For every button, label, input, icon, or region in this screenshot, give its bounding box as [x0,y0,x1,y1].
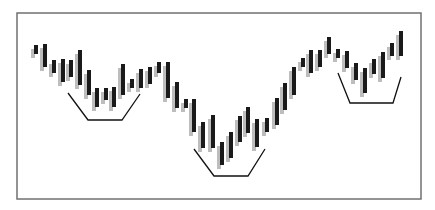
price-bar [363,68,367,93]
price-bar [390,43,394,56]
price-bar [78,50,82,85]
price-bar [130,79,134,88]
price-bar [399,31,403,56]
price-bar [292,67,296,95]
price-bar [87,70,91,95]
price-bar [220,142,224,165]
price-bar [95,88,99,107]
price-bar [211,115,215,148]
price-bar [318,50,322,67]
price-bar [34,45,38,54]
price-bar-chart [0,0,435,210]
price-bar [372,59,376,74]
price-bar [381,52,385,78]
bar-shadows [31,35,400,169]
price-bar [336,49,340,58]
price-bar [265,118,269,132]
price-bar [229,132,233,158]
price-bar [175,82,179,108]
bottom-brackets [68,73,401,176]
price-bar [275,98,279,125]
price-bar [327,37,331,54]
price-bar [238,116,242,142]
price-bar [139,69,143,88]
price-bar [69,60,73,77]
price-bar [184,99,188,108]
price-bar [112,87,116,107]
price-bar [283,83,287,110]
price-bar [43,44,47,67]
price-bar [192,99,196,132]
price-bar [301,58,305,67]
price-bar [148,67,152,84]
price-bar [166,62,170,98]
price-bar [345,51,349,68]
price-bar [354,63,358,80]
price-bar [201,122,205,148]
price-bar [121,64,125,95]
price-bar [309,50,313,73]
price-bar [104,88,108,100]
price-bar [246,107,250,133]
price-bar [61,59,65,82]
price-bar [157,62,161,73]
price-bar [52,60,56,73]
price-bar [255,119,259,147]
